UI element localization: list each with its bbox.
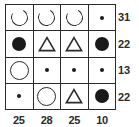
grid-cell-r3c2[interactable] bbox=[34, 58, 62, 84]
grid-cell-r1c2[interactable] bbox=[34, 5, 62, 31]
grid-cell-r1c3[interactable] bbox=[61, 5, 89, 31]
grid-cell-r2c1[interactable] bbox=[6, 31, 34, 57]
small-dot-icon bbox=[100, 68, 104, 72]
small-dot-icon bbox=[17, 94, 21, 98]
puzzle-grid bbox=[5, 4, 116, 110]
column-sum-2: 28 bbox=[33, 112, 61, 127]
grid-cell-r3c3[interactable] bbox=[61, 58, 89, 84]
grid-cell-r2c4[interactable] bbox=[89, 31, 117, 57]
grid-cell-r4c4[interactable] bbox=[89, 84, 117, 110]
column-sum-4: 10 bbox=[88, 112, 116, 127]
small-dot-icon bbox=[45, 68, 49, 72]
row-sum-1: 31 bbox=[118, 4, 139, 31]
grid-cell-r4c3[interactable] bbox=[61, 84, 89, 110]
grid-cell-r3c1[interactable] bbox=[6, 58, 34, 84]
grid-cell-r4c1[interactable] bbox=[6, 84, 34, 110]
symbol-grid-puzzle: 31 22 13 22 25 28 25 10 bbox=[0, 0, 139, 127]
row-sum-3: 13 bbox=[118, 57, 139, 84]
grid-cell-r4c2[interactable] bbox=[34, 84, 62, 110]
filled-circle-icon bbox=[12, 37, 26, 51]
row-sum-4: 22 bbox=[118, 84, 139, 111]
column-sum-1: 25 bbox=[5, 112, 33, 127]
column-sum-row: 25 28 25 10 bbox=[5, 112, 116, 127]
filled-circle-icon bbox=[95, 89, 109, 103]
open-circle-icon bbox=[37, 87, 56, 106]
row-sum-2: 22 bbox=[118, 31, 139, 58]
open-circle-icon bbox=[9, 7, 30, 28]
grid-cell-r1c4[interactable] bbox=[89, 5, 117, 31]
open-circle-icon bbox=[10, 61, 29, 80]
triangle-icon bbox=[38, 36, 56, 52]
grid-cell-r1c1[interactable] bbox=[6, 5, 34, 31]
row-sum-column: 31 22 13 22 bbox=[118, 4, 139, 110]
small-dot-icon bbox=[100, 16, 104, 20]
small-dot-icon bbox=[72, 68, 76, 72]
column-sum-3: 25 bbox=[61, 112, 89, 127]
triangle-icon bbox=[65, 36, 83, 52]
grid-cell-r2c3[interactable] bbox=[61, 31, 89, 57]
grid-cell-r2c2[interactable] bbox=[34, 31, 62, 57]
open-circle-icon bbox=[36, 7, 57, 28]
triangle-icon bbox=[65, 88, 83, 104]
filled-circle-icon bbox=[95, 37, 109, 51]
open-circle-icon bbox=[64, 7, 85, 28]
grid-cell-r3c4[interactable] bbox=[89, 58, 117, 84]
